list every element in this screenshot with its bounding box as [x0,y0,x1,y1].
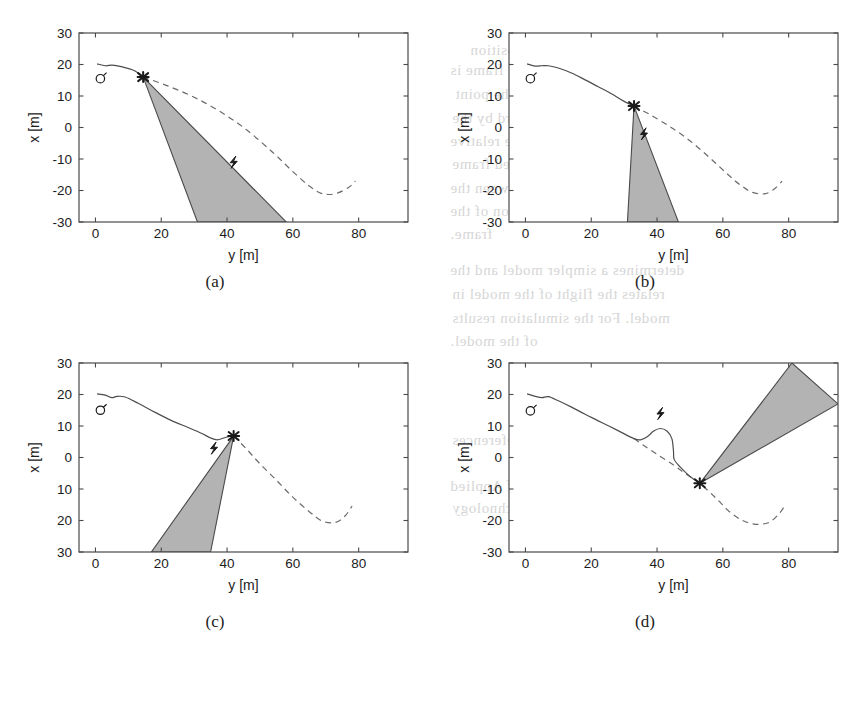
y-tick-label: 10 [57,89,72,104]
subplot-panel-b: 0204060803020100-10-20-30y [m]x [m](b) [430,0,860,330]
y-tick-label: 10 [57,419,72,434]
x-axis-label: y [m] [658,577,688,593]
x-tick-label: 80 [351,226,366,241]
y-tick-label: 10 [487,89,502,104]
x-tick-label: 80 [781,226,796,241]
subplot-panel-c: 0204060803020100102030y [m]x [m](c) [0,330,430,660]
y-tick-label: 20 [57,57,72,72]
y-tick-label: -30 [482,545,502,560]
x-tick-label: 40 [220,226,235,241]
y-tick-label: -10 [52,152,72,167]
figure-root: positionthe system. The body fixed frame… [0,0,860,711]
y-tick-label: 30 [487,356,502,371]
cross-marker [138,72,149,82]
y-tick-label: 10 [487,419,502,434]
y-tick-label: 20 [57,387,72,402]
y-tick-label: 10 [57,482,72,497]
y-tick-label: -20 [52,183,72,198]
y-tick-label: 20 [487,57,502,72]
y-axis-label: x [m] [456,112,472,142]
x-tick-label: 0 [522,226,530,241]
y-tick-label: -30 [52,215,72,230]
x-axis-label: y [m] [228,577,258,593]
y-tick-label: 20 [57,513,72,528]
x-tick-label: 40 [220,556,235,571]
x-tick-label: 20 [154,556,169,571]
x-tick-label: 0 [92,226,100,241]
y-tick-label: 0 [494,450,502,465]
y-tick-label: 20 [487,387,502,402]
x-tick-label: 60 [285,556,300,571]
x-axis-label: y [m] [228,247,258,263]
y-tick-label: 30 [487,26,502,41]
x-tick-label: 40 [650,226,665,241]
y-tick-label: 0 [64,450,72,465]
x-tick-label: 60 [285,226,300,241]
y-tick-label: 0 [64,120,72,135]
subplot-panel-d: 0204060803020100-10-20-30y [m]x [m](d) [430,330,860,660]
plot-background [509,33,838,222]
panel-caption-a: (a) [0,272,430,292]
x-tick-label: 40 [650,556,665,571]
x-tick-label: 0 [522,556,530,571]
y-tick-label: -10 [482,152,502,167]
cross-marker [228,431,239,441]
y-tick-label: -10 [482,482,502,497]
x-tick-label: 60 [715,556,730,571]
panel-caption-d: (d) [430,612,860,632]
subplot-panel-a: 0204060803020100-10-20-30y [m]x [m](a) [0,0,430,330]
x-tick-label: 0 [92,556,100,571]
plot-d: 0204060803020100-10-20-30y [m]x [m] [430,330,860,660]
x-tick-label: 20 [584,556,599,571]
y-tick-label: 0 [494,120,502,135]
y-axis-label: x [m] [26,112,42,142]
y-tick-label: 30 [57,26,72,41]
plot-c: 0204060803020100102030y [m]x [m] [0,330,430,660]
panel-caption-c: (c) [0,612,430,632]
y-axis-label: x [m] [456,442,472,472]
y-axis-label: x [m] [26,442,42,472]
panel-caption-b: (b) [430,272,860,292]
x-axis-label: y [m] [658,247,688,263]
y-tick-label: -20 [482,513,502,528]
y-tick-label: -30 [482,215,502,230]
x-tick-label: 80 [351,556,366,571]
cross-marker [694,478,705,488]
y-tick-label: 30 [57,545,72,560]
y-tick-label: -20 [482,183,502,198]
x-tick-label: 60 [715,226,730,241]
x-tick-label: 20 [154,226,169,241]
x-tick-label: 20 [584,226,599,241]
plot-background [79,363,408,552]
x-tick-label: 80 [781,556,796,571]
y-tick-label: 30 [57,356,72,371]
cross-marker [629,101,640,111]
